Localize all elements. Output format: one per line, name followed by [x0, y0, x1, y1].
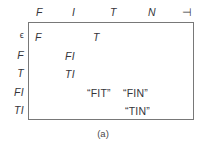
row-label-epsilon: ϵ	[0, 30, 24, 40]
row-label-ti: TI	[0, 104, 24, 116]
table-cell: T	[93, 31, 100, 43]
table-cell: “FIN”	[123, 87, 148, 99]
table-cell: “FIT”	[87, 87, 111, 99]
row-label-t: T	[0, 67, 24, 79]
table-cell: “TIN”	[125, 105, 150, 117]
column-header-i: I	[72, 6, 75, 18]
table-cell: F	[35, 31, 42, 43]
matrix-box: FTFITI“FIT”“FIN”“TIN”	[28, 22, 194, 120]
table-cell: TI	[65, 68, 75, 80]
column-header-f: F	[36, 6, 43, 18]
row-label-column: ϵFTFITI	[0, 22, 24, 120]
column-header-n: N	[148, 6, 156, 18]
row-label-fi: FI	[0, 86, 24, 98]
table-cell: FI	[65, 50, 75, 62]
column-header-endmarker: ⊣	[182, 6, 192, 19]
column-header-row: FITN⊣	[28, 6, 194, 20]
row-label-f: F	[0, 49, 24, 61]
parse-table-figure: FITN⊣ FTFITI“FIT”“FIN”“TIN” ϵFTFITI (a)	[0, 0, 206, 158]
figure-caption: (a)	[0, 128, 206, 139]
column-header-t: T	[110, 6, 117, 18]
